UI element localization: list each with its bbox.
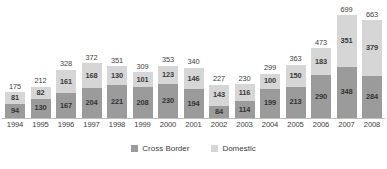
bar-group[interactable]: 21282130 [29,4,53,118]
bar-group[interactable]: 351130221 [105,4,129,118]
bar-segment-domestic[interactable]: 101 [133,72,153,87]
stacked-bar[interactable]: 150213 [286,65,306,118]
bar-segment-domestic[interactable]: 183 [311,48,331,75]
x-axis-tick-1994: 1994 [3,120,27,129]
legend-label: Cross Border [142,144,189,153]
segment-value-label: 143 [213,91,225,99]
bar-total-label: 328 [60,59,72,68]
stacked-bar[interactable]: 101208 [133,72,153,118]
segment-value-label: 146 [187,75,199,83]
stacked-bar[interactable]: 146194 [184,68,204,118]
bar-segment-cross-border[interactable]: 194 [184,89,204,118]
x-axis-tick-2002: 2002 [207,120,231,129]
bar-total-label: 230 [238,74,250,83]
bar-group[interactable]: 328161167 [54,4,78,118]
stacked-bar[interactable]: 351348 [337,15,357,118]
segment-value-label: 348 [340,88,352,96]
bar-segment-cross-border[interactable]: 94 [5,104,25,118]
stacked-bar[interactable]: 161167 [56,70,76,118]
bar-group[interactable]: 340146194 [182,4,206,118]
x-axis-tick-1995: 1995 [29,120,53,129]
segment-value-label: 150 [289,72,301,80]
x-axis-tick-2001: 2001 [182,120,206,129]
bar-group[interactable]: 230116114 [233,4,257,118]
bar-segment-domestic[interactable]: 379 [362,20,382,76]
segment-value-label: 204 [85,99,97,107]
bar-segment-cross-border[interactable]: 167 [56,93,76,118]
segment-value-label: 379 [366,44,378,52]
legend-item[interactable]: Cross Border [131,144,189,153]
segment-value-label: 213 [289,98,301,106]
bar-group[interactable]: 299100199 [258,4,282,118]
stacked-bar[interactable]: 14384 [209,85,229,118]
stacked-bar[interactable]: 379284 [362,20,382,118]
segment-value-label: 168 [85,72,97,80]
bar-segment-domestic[interactable]: 116 [235,84,255,101]
x-axis-tick-2004: 2004 [258,120,282,129]
stacked-bar[interactable]: 130221 [107,66,127,118]
bar-segment-domestic[interactable]: 82 [31,87,51,99]
stacked-bar[interactable]: 82130 [31,87,51,118]
bar-segment-domestic[interactable]: 123 [158,66,178,84]
segment-value-label: 116 [239,89,251,97]
bar-segment-cross-border[interactable]: 221 [107,85,127,118]
bar-segment-cross-border[interactable]: 290 [311,75,331,118]
segment-value-label: 194 [187,100,199,108]
bar-segment-cross-border[interactable]: 84 [209,106,229,118]
bar-segment-domestic[interactable]: 100 [260,74,280,89]
bar-total-label: 473 [315,38,327,47]
x-axis-tick-2000: 2000 [156,120,180,129]
bar-segment-cross-border[interactable]: 230 [158,84,178,118]
bar-group[interactable]: 699351348 [335,4,359,118]
segment-value-label: 351 [340,37,352,45]
bar-group[interactable]: 473183290 [309,4,333,118]
bar-group[interactable]: 353123230 [156,4,180,118]
segment-value-label: 82 [36,89,44,97]
x-axis-line [2,118,385,119]
bar-segment-cross-border[interactable]: 114 [235,101,255,118]
stacked-bar[interactable]: 116114 [235,84,255,118]
stacked-bar[interactable]: 8194 [5,92,25,118]
bar-segment-cross-border[interactable]: 213 [286,87,306,118]
stacked-bar[interactable]: 123230 [158,66,178,118]
bar-segment-cross-border[interactable]: 199 [260,89,280,118]
bar-group[interactable]: 372168204 [80,4,104,118]
bar-segment-cross-border[interactable]: 130 [31,99,51,118]
legend-item[interactable]: Domestic [211,144,255,153]
bar-group[interactable]: 22714384 [207,4,231,118]
bar-segment-cross-border[interactable]: 208 [133,87,153,118]
bar-segment-domestic[interactable]: 168 [82,63,102,88]
bar-group[interactable]: 363150213 [284,4,308,118]
bar-segment-cross-border[interactable]: 284 [362,76,382,118]
bar-segment-domestic[interactable]: 146 [184,68,204,90]
segment-value-label: 130 [34,104,46,112]
bar-total-label: 227 [213,74,225,83]
bar-segment-domestic[interactable]: 351 [337,15,357,67]
stacked-bar[interactable]: 183290 [311,48,331,118]
bar-group[interactable]: 1758194 [3,4,27,118]
segment-value-label: 284 [366,93,378,101]
bar-segment-domestic[interactable]: 130 [107,66,127,85]
bar-segment-domestic[interactable]: 150 [286,65,306,87]
bar-segment-domestic[interactable]: 161 [56,70,76,94]
segment-value-label: 123 [162,71,174,79]
chart-legend: Cross BorderDomestic [0,144,387,153]
bar-segment-cross-border[interactable]: 348 [337,67,357,118]
bar-segment-domestic[interactable]: 81 [5,92,25,104]
bar-group[interactable]: 309101208 [131,4,155,118]
bar-total-label: 212 [34,76,46,85]
stacked-bar[interactable]: 100199 [260,74,280,118]
segment-value-label: 208 [136,99,148,107]
segment-value-label: 84 [215,108,223,116]
bar-segment-cross-border[interactable]: 204 [82,88,102,118]
bar-segment-domestic[interactable]: 143 [209,85,229,106]
segment-value-label: 100 [264,77,276,85]
legend-swatch-icon [131,145,138,152]
segment-value-label: 167 [60,102,72,110]
bar-total-label: 372 [85,53,97,62]
plot-area: 1758194212821303281611673721682043511302… [0,4,387,118]
bar-total-label: 340 [187,57,199,66]
x-axis-tick-2003: 2003 [233,120,257,129]
stacked-bar[interactable]: 168204 [82,63,102,118]
bar-group[interactable]: 663379284 [360,4,384,118]
